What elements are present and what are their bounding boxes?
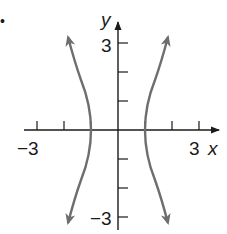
x-axis-label: x [207, 138, 219, 159]
left-branch-upper [68, 37, 91, 130]
y-min-label: −3 [90, 208, 112, 229]
x-max-label: 3 [189, 138, 200, 159]
bullet-marker: • [0, 13, 5, 29]
y-axis-label: y [99, 9, 112, 30]
left-branch-lower [68, 130, 91, 223]
x-min-label: −3 [17, 138, 39, 159]
right-branch-lower [145, 130, 168, 223]
hyperbola-graph: • −3 3 x y 3 −3 [0, 0, 227, 234]
y-max-label: 3 [101, 35, 112, 56]
right-branch-upper [145, 37, 168, 130]
